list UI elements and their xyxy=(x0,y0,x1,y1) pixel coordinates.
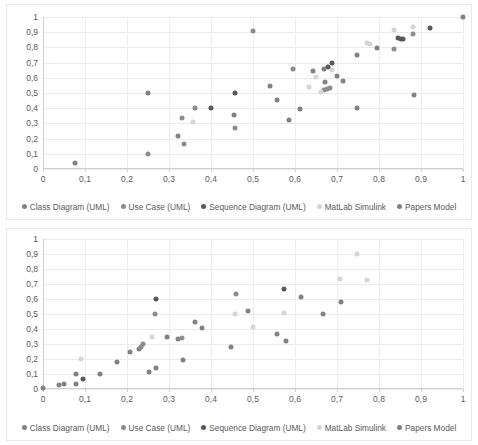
x-axis-tick-mark xyxy=(85,169,86,172)
scatter-point xyxy=(337,276,342,281)
legend-item-class-diagram[interactable]: Class Diagram (UML) xyxy=(22,203,110,211)
scatter-point xyxy=(208,106,213,111)
scatter-point xyxy=(321,66,326,71)
scatter-point xyxy=(179,336,184,341)
legend-item-label: MatLab Simulink xyxy=(325,424,386,432)
x-axis-tick-mark xyxy=(463,169,464,172)
scatter-point xyxy=(193,106,198,111)
x-axis-tick-label: 1 xyxy=(461,175,466,184)
gridline-vertical xyxy=(463,239,464,389)
gridline-vertical xyxy=(211,239,212,389)
legend-item-sequence-diagram[interactable]: Sequence Diagram (UML) xyxy=(201,203,305,211)
legend-marker-icon xyxy=(317,204,322,209)
scatter-point xyxy=(78,357,83,362)
y-axis-tick-label: 0,1 xyxy=(26,150,38,159)
scatter-point xyxy=(401,37,406,42)
y-axis-tick-label: 0,4 xyxy=(26,104,38,113)
legend-item-label: Class Diagram (UML) xyxy=(30,203,110,211)
x-axis-line xyxy=(43,388,463,389)
legend-marker-icon xyxy=(121,425,126,430)
plot-wrap-bottom: 00,10,20,30,40,50,60,70,80,9100,10,20,30… xyxy=(7,229,471,440)
y-axis-tick-label: 0,5 xyxy=(26,89,38,98)
scatter-point xyxy=(251,28,256,33)
x-axis-tick-mark xyxy=(295,389,296,392)
scatter-point xyxy=(328,85,333,90)
gridline-vertical xyxy=(295,239,296,389)
y-axis-tick-label: 0,5 xyxy=(26,310,38,319)
legend-item-papers-model[interactable]: Papers Model xyxy=(397,203,456,211)
scatter-point xyxy=(246,309,251,314)
x-axis-tick-label: 0,8 xyxy=(373,395,385,404)
x-axis-tick-label: 0,3 xyxy=(163,395,175,404)
x-axis-tick-label: 0 xyxy=(41,395,46,404)
scatter-point xyxy=(368,42,373,47)
chart-legend-top: Class Diagram (UML)Use Case (UML)Sequenc… xyxy=(7,203,471,211)
scatter-point xyxy=(320,311,325,316)
scatter-point xyxy=(152,311,157,316)
chart-panel-bottom: 00,10,20,30,40,50,60,70,80,9100,10,20,30… xyxy=(6,228,472,441)
y-axis-tick-label: 0,1 xyxy=(26,370,38,379)
x-axis-tick-mark xyxy=(337,169,338,172)
x-axis-tick-mark xyxy=(421,389,422,392)
legend-item-label: Use Case (UML) xyxy=(129,203,191,211)
scatter-point xyxy=(428,26,433,31)
x-axis-tick-label: 0 xyxy=(41,175,46,184)
scatter-point xyxy=(153,366,158,371)
plot-area-bottom: 00,10,20,30,40,50,60,70,80,9100,10,20,30… xyxy=(43,239,463,389)
scatter-point xyxy=(329,61,334,66)
scatter-point xyxy=(164,334,169,339)
x-axis-tick-label: 0,1 xyxy=(79,175,91,184)
legend-item-sequence-diagram[interactable]: Sequence Diagram (UML) xyxy=(201,424,305,432)
legend-item-use-case[interactable]: Use Case (UML) xyxy=(121,424,191,432)
scatter-point xyxy=(62,381,67,386)
x-axis-tick-mark xyxy=(169,389,170,392)
legend-item-label: Class Diagram (UML) xyxy=(30,424,110,432)
legend-marker-icon xyxy=(397,204,402,209)
x-axis-tick-label: 0,9 xyxy=(415,175,427,184)
y-axis-tick-label: 0,6 xyxy=(26,295,38,304)
scatter-point xyxy=(283,338,288,343)
legend-item-use-case[interactable]: Use Case (UML) xyxy=(121,203,191,211)
x-axis-tick-label: 0,4 xyxy=(205,175,217,184)
legend-marker-icon xyxy=(22,425,27,430)
scatter-point xyxy=(297,107,302,112)
gridline-vertical xyxy=(211,17,212,169)
x-axis-tick-label: 0,4 xyxy=(205,395,217,404)
x-axis-tick-mark xyxy=(85,389,86,392)
scatter-point xyxy=(56,382,61,387)
x-axis-tick-label: 0,2 xyxy=(121,395,133,404)
legend-item-matlab-simulink[interactable]: MatLab Simulink xyxy=(317,424,386,432)
x-axis-tick-mark xyxy=(253,169,254,172)
legend-marker-icon xyxy=(201,425,206,430)
x-axis-tick-label: 0,6 xyxy=(289,395,301,404)
legend-item-label: Use Case (UML) xyxy=(129,424,191,432)
gridline-vertical xyxy=(253,239,254,389)
scatter-point xyxy=(355,53,360,58)
scatter-point xyxy=(251,324,256,329)
y-axis-tick-label: 0,3 xyxy=(26,340,38,349)
scatter-point xyxy=(146,369,151,374)
scatter-point xyxy=(339,300,344,305)
x-axis-tick-label: 0,2 xyxy=(121,175,133,184)
y-axis-tick-label: 0,9 xyxy=(26,28,38,37)
plot-area-top: 00,10,20,30,40,50,60,70,80,9100,10,20,30… xyxy=(43,17,463,169)
x-axis-tick-mark xyxy=(337,389,338,392)
gridline-vertical xyxy=(337,239,338,389)
scatter-point xyxy=(232,112,237,117)
x-axis-tick-mark xyxy=(421,169,422,172)
scatter-charts-page: 00,10,20,30,40,50,60,70,80,9100,10,20,30… xyxy=(0,0,478,445)
legend-item-papers-model[interactable]: Papers Model xyxy=(397,424,456,432)
x-axis-tick-label: 0,5 xyxy=(247,175,259,184)
scatter-point xyxy=(411,32,416,37)
y-axis-line xyxy=(43,17,44,169)
scatter-point xyxy=(150,335,155,340)
scatter-point xyxy=(74,371,79,376)
scatter-point xyxy=(232,125,237,130)
legend-item-matlab-simulink[interactable]: MatLab Simulink xyxy=(317,203,386,211)
y-axis-tick-label: 0,7 xyxy=(26,58,38,67)
x-axis-tick-mark xyxy=(43,169,44,172)
scatter-point xyxy=(274,98,279,103)
gridline-vertical xyxy=(169,17,170,169)
legend-item-class-diagram[interactable]: Class Diagram (UML) xyxy=(22,424,110,432)
y-axis-tick-label: 0,2 xyxy=(26,355,38,364)
